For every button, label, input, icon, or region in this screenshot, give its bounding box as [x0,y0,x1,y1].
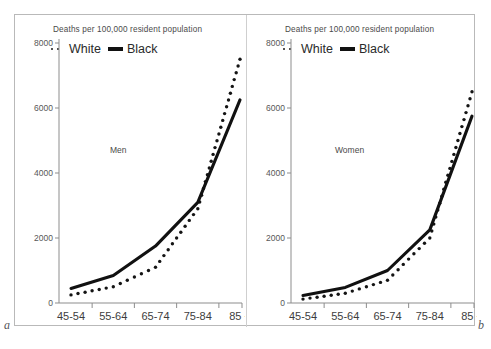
x-tick-label: 85 + [461,310,477,322]
y-tick-label: 8000 [34,38,53,48]
y-tick-label: 6000 [266,103,285,113]
x-tick-label: 75-84 [184,310,212,322]
data-dot [358,287,361,290]
data-dot [179,231,182,234]
data-dot [133,275,136,278]
data-dot [428,236,431,239]
data-dot [192,213,195,216]
data-dot [462,118,465,121]
data-dot [452,153,455,156]
data-dot [351,289,354,292]
data-dot [418,247,421,250]
x-tick-label: 55-64 [331,310,359,322]
data-dot [215,139,218,142]
y-tick-label: 4000 [266,168,285,178]
panel-women: Deaths per 100,000 resident population W… [246,15,477,327]
data-dot [454,146,457,149]
y-tick-label: 6000 [34,103,53,113]
data-dot [466,104,469,107]
y-tick-label: 0 [48,298,53,308]
x-tick-label: 45-54 [289,310,317,322]
data-dot [386,279,389,282]
data-dot [412,252,415,255]
data-dot [154,266,157,269]
data-dot [464,111,467,114]
data-dot [402,263,405,266]
data-dot [330,294,333,297]
data-dot [372,283,375,286]
data-dot [456,139,459,142]
data-dot [470,90,473,93]
data-dot [396,268,399,271]
data-dot [183,225,186,228]
data-dot [162,254,165,257]
data-dot [171,242,174,245]
data-dot [211,153,214,156]
data-dot [76,292,79,295]
data-dot [225,105,228,108]
x-tick-label: 75-84 [416,310,444,322]
data-dot [365,285,368,288]
data-dot [83,291,86,294]
data-dot [379,281,382,284]
y-tick-label: 2000 [34,233,53,243]
data-dot [460,125,463,128]
data-dot [223,112,226,115]
y-tick-label: 0 [280,298,285,308]
data-dot [301,297,304,300]
figure-letter-a: a [4,318,10,333]
data-dot [337,293,340,296]
data-dot [105,286,108,289]
figure-frame: Deaths per 100,000 resident population W… [14,14,475,326]
plot-area-men: 0200040006000800045-5455-6465-7475-8485 … [15,15,245,327]
data-dot [98,288,101,291]
x-tick-label: 45-54 [57,310,85,322]
x-tick-label: 55-64 [99,310,127,322]
y-tick-label: 8000 [266,38,285,48]
data-dot [229,92,232,95]
data-dot [315,296,318,299]
data-dot [235,71,238,74]
data-dot [391,273,394,276]
panel-men: Deaths per 100,000 resident population W… [15,15,245,327]
data-dot [213,146,216,149]
data-dot [90,289,93,292]
x-tick-label: 65-74 [373,310,401,322]
data-dot [236,64,239,67]
data-dot [196,207,199,210]
data-dot [458,132,461,135]
data-dot [344,292,347,295]
data-dot [423,242,426,245]
data-dot [221,119,224,122]
data-dot [119,282,122,285]
figure-two-panel-mortality-chart: Deaths per 100,000 resident population W… [0,0,491,349]
series-line-black [303,116,472,295]
data-dot [147,269,150,272]
data-dot [468,97,471,100]
data-dot [217,132,220,135]
data-dot [175,236,178,239]
series-dots-white [69,58,241,297]
data-dot [227,98,230,101]
data-dot [238,58,241,61]
data-dot [231,85,234,88]
data-dot [407,257,410,260]
data-dot [140,272,143,275]
data-dot [167,248,170,251]
data-dot [210,160,213,163]
x-tick-label: 85 + [229,310,245,322]
data-dot [322,295,325,298]
plot-area-women: 0200040006000800045-5455-6465-7475-8485 … [247,15,477,327]
data-dot [233,78,236,81]
series-line-black [71,100,240,289]
data-dot [450,160,453,163]
data-dot [219,126,222,129]
data-dot [158,260,161,263]
data-dot [126,279,129,282]
data-dot [112,285,115,288]
data-dot [308,296,311,299]
data-dot [188,219,191,222]
data-dot [69,293,72,296]
y-tick-label: 2000 [266,233,285,243]
y-tick-label: 4000 [34,168,53,178]
